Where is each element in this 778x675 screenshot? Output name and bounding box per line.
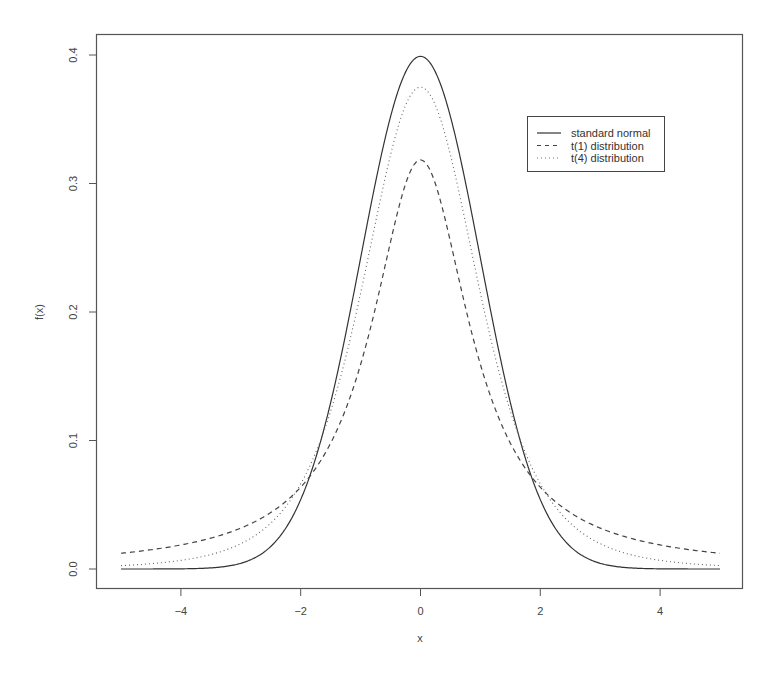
x-tick-label: 2 bbox=[537, 605, 543, 617]
y-axis-label: f(x) bbox=[33, 304, 45, 320]
x-tick-label: 0 bbox=[417, 605, 423, 617]
legend-label: t(4) distribution bbox=[571, 152, 644, 164]
y-tick-label: 0.2 bbox=[67, 304, 79, 319]
x-tick-label: −2 bbox=[294, 605, 307, 617]
legend-label: standard normal bbox=[571, 127, 651, 139]
x-axis-label: x bbox=[417, 632, 423, 644]
legend: standard normal t(1) distribution t(4) d… bbox=[528, 117, 665, 172]
y-tick-label: 0.1 bbox=[67, 433, 79, 448]
y-tick-label: 0.0 bbox=[67, 561, 79, 576]
legend-label: t(1) distribution bbox=[571, 140, 644, 152]
y-axis: 0.00.10.20.30.4 bbox=[67, 47, 97, 576]
y-tick-label: 0.3 bbox=[67, 176, 79, 191]
density-chart: −4−2024 0.00.10.20.30.4 x f(x) standard … bbox=[0, 0, 778, 675]
t1-distribution-curve bbox=[121, 160, 720, 553]
x-axis: −4−2024 bbox=[175, 589, 664, 617]
y-tick-label: 0.4 bbox=[67, 47, 79, 62]
x-tick-label: −4 bbox=[175, 605, 188, 617]
x-tick-label: 4 bbox=[657, 605, 663, 617]
